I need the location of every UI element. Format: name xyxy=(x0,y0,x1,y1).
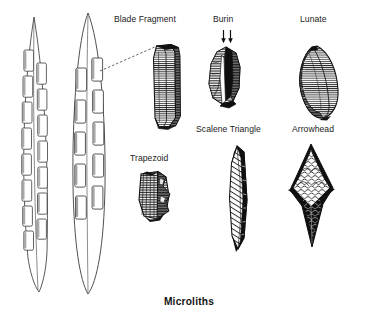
figure-caption: Microliths xyxy=(0,296,378,307)
label-trapezoid: Trapezoid xyxy=(130,153,168,163)
specimen-blade-fragment xyxy=(154,45,181,130)
label-lunate: Lunate xyxy=(300,14,327,24)
label-scalene-triangle: Scalene Triangle xyxy=(196,124,261,134)
specimen-scalene-triangle xyxy=(230,146,248,252)
label-blade-fragment: Blade Fragment xyxy=(114,14,176,24)
microliths-illustration xyxy=(0,0,378,330)
label-arrowhead: Arrowhead xyxy=(292,124,334,134)
label-burin: Burin xyxy=(213,14,233,24)
microliths-figure: Blade Fragment Burin Lunate Scalene Tria… xyxy=(0,0,378,330)
